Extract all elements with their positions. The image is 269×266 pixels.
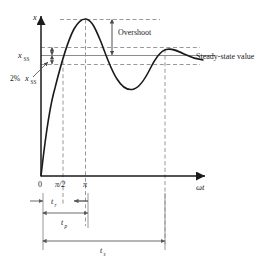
tolerance-band-label: 2% x SS bbox=[10, 73, 36, 85]
x-axis-label: ωt bbox=[196, 182, 205, 192]
tolerance-band-prefix: 2% bbox=[10, 74, 21, 83]
rise-time-label: t r bbox=[51, 197, 58, 208]
rise-time-subscript: r bbox=[55, 202, 58, 208]
peak-time-subscript: p bbox=[64, 223, 68, 229]
tolerance-band-symbol: x bbox=[24, 73, 29, 83]
x-tick-label-half-pi: π/2 bbox=[55, 180, 65, 189]
y-axis-label: x bbox=[32, 12, 37, 22]
overshoot-label: Overshoot bbox=[118, 28, 152, 37]
steady-state-symbol-base: x bbox=[17, 50, 22, 60]
step-response-diagram: x ωt 0 π/2 π x SS 2% x SS Overshoot Stea… bbox=[0, 0, 269, 266]
figure-container: x ωt 0 π/2 π x SS 2% x SS Overshoot Stea… bbox=[0, 0, 269, 266]
steady-state-symbol-subscript: SS bbox=[24, 56, 30, 62]
tolerance-band-subscript: SS bbox=[31, 79, 37, 85]
settling-time-label: t s bbox=[100, 246, 106, 257]
settling-time-subscript: s bbox=[104, 251, 106, 257]
x-tick-label-zero: 0 bbox=[38, 180, 42, 189]
steady-state-value-label: Steady-state value bbox=[196, 52, 255, 61]
step-response-curve bbox=[41, 19, 203, 176]
x-tick-label-pi: π bbox=[83, 180, 88, 189]
steady-state-symbol-label: x SS bbox=[17, 50, 29, 62]
peak-time-label: t p bbox=[61, 218, 68, 229]
